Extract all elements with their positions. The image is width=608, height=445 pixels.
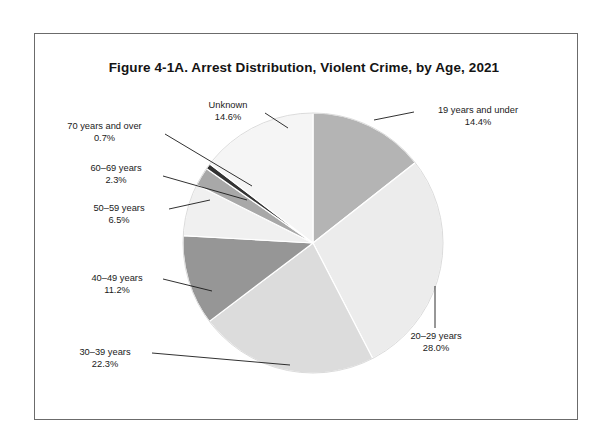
leader-line-19-under [374, 112, 414, 120]
slice-label-19-under: 19 years and under 14.4% [418, 105, 538, 128]
slice-label-19-under-name: 19 years and under [418, 105, 538, 117]
slice-label-19-under-value: 14.4% [418, 117, 538, 129]
slice-label-unknown: Unknown 14.6% [183, 100, 273, 123]
slice-label-unknown-name: Unknown [183, 100, 273, 112]
slice-label-30-39: 30–39 years 22.3% [62, 347, 148, 370]
slice-label-20-29: 20–29 years 28.0% [393, 331, 479, 354]
slice-label-70-plus-value: 0.7% [47, 133, 162, 145]
slice-label-60-69-value: 2.3% [73, 175, 159, 187]
slice-label-30-39-name: 30–39 years [62, 347, 148, 359]
slice-label-30-39-value: 22.3% [62, 359, 148, 371]
slice-label-40-49-name: 40–49 years [74, 273, 160, 285]
slice-label-20-29-name: 20–29 years [393, 331, 479, 343]
slice-label-60-69-name: 60–69 years [73, 163, 159, 175]
slice-label-50-59-value: 6.5% [76, 215, 162, 227]
slice-label-50-59-name: 50–59 years [76, 203, 162, 215]
slice-label-40-49-value: 11.2% [74, 285, 160, 297]
slice-label-40-49: 40–49 years 11.2% [74, 273, 160, 296]
slice-label-60-69: 60–69 years 2.3% [73, 163, 159, 186]
slice-label-unknown-value: 14.6% [183, 112, 273, 124]
figure-container: Figure 4-1A. Arrest Distribution, Violen… [0, 0, 608, 445]
slice-label-70-plus-name: 70 years and over [47, 121, 162, 133]
slice-label-70-plus: 70 years and over 0.7% [47, 121, 162, 144]
slice-label-50-59: 50–59 years 6.5% [76, 203, 162, 226]
slice-label-20-29-value: 28.0% [393, 343, 479, 355]
